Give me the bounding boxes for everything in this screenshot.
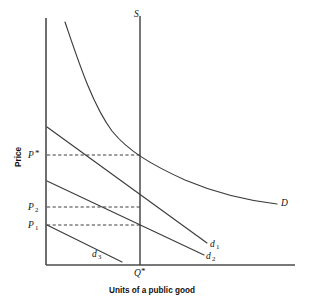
y-axis-title: Price: [14, 147, 23, 167]
p1-tick-label-subscript: 1: [35, 224, 38, 231]
q-star-tick-label: Q: [134, 268, 141, 278]
q-star-tick-label-star: *: [141, 266, 146, 276]
p2-tick-label: P: [27, 202, 34, 212]
individual-demand-1-line: [47, 127, 207, 243]
individual-demand-1-label: d: [210, 239, 215, 249]
individual-demand-2-label-subscript: 2: [212, 255, 216, 262]
p2-tick-label-subscript: 2: [35, 206, 39, 213]
supply-curve-label: S: [134, 9, 139, 19]
individual-demand-3-label-subscript: 3: [98, 253, 102, 260]
p-star-tick-label-star: *: [35, 148, 40, 158]
individual-demand-2-line: [47, 181, 204, 255]
x-axis-title: Units of a public good: [109, 286, 195, 295]
public-good-equilibrium-figure: S D d 1 d 2 d 3 P * P 2 P 1 Q * Price Un…: [0, 0, 312, 308]
p1-tick-label: P: [27, 220, 34, 230]
aggregate-demand-curve: [65, 22, 277, 204]
individual-demand-2-label: d: [206, 251, 211, 261]
individual-demand-3-label: d: [92, 249, 97, 259]
aggregate-demand-label: D: [280, 198, 288, 208]
individual-demand-1-label-subscript: 1: [216, 243, 219, 250]
individual-demand-3-line: [47, 225, 122, 262]
p-star-tick-label: P: [27, 150, 34, 160]
